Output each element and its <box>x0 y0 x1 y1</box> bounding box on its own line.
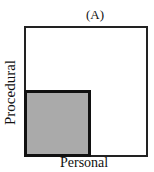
x-axis-label: Personal <box>60 155 108 170</box>
y-axis-label: Procedural <box>2 60 19 125</box>
shaded-square <box>24 90 91 157</box>
diagram-title: (A) <box>80 8 110 22</box>
